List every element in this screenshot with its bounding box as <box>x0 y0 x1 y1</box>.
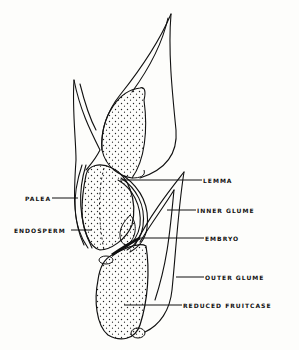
label-reduced-fruitcase: REDUCED FRUITCASE <box>183 302 272 309</box>
label-endosperm: ENDOSPERM <box>14 227 66 234</box>
label-embryo: EMBRYO <box>205 235 239 242</box>
spikelet-diagram: LEMMA PALEA INNER GLUME ENDOSPERM EMBRYO… <box>0 0 299 350</box>
diagram-drawing <box>0 0 299 350</box>
label-palea: PALEA <box>25 195 51 202</box>
label-lemma: LEMMA <box>203 177 233 184</box>
label-outer-glume: OUTER GLUME <box>205 274 264 281</box>
label-inner-glume: INNER GLUME <box>197 207 255 214</box>
